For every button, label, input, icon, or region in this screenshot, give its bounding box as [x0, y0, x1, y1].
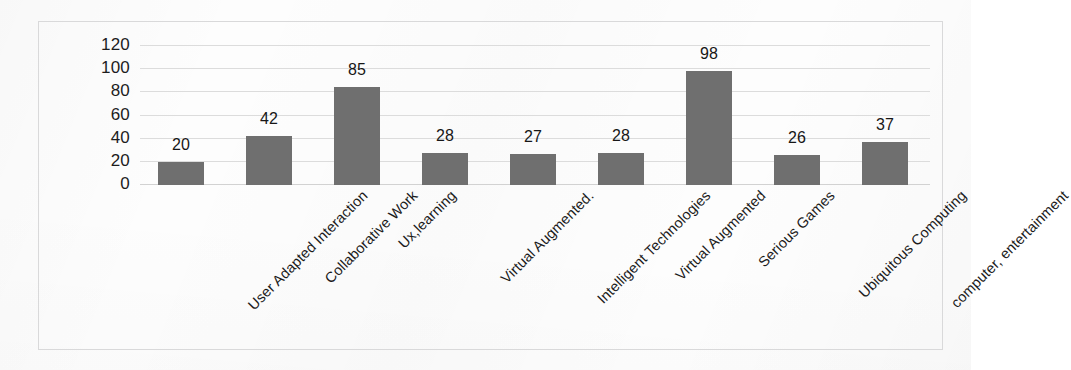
- gridline-100: [140, 68, 930, 69]
- y-axis-tick-80: 80: [111, 82, 130, 99]
- y-axis-tick-0: 0: [120, 175, 130, 192]
- bar[interactable]: [246, 136, 292, 185]
- bar[interactable]: [598, 153, 644, 185]
- y-axis-tick-40: 40: [111, 129, 130, 146]
- bar-value-label: 85: [320, 62, 394, 78]
- bar-value-label: 37: [848, 117, 922, 133]
- y-axis-tick-100: 100: [101, 59, 130, 76]
- bar-value-label: 28: [408, 128, 482, 144]
- bar-value-label: 28: [584, 128, 658, 144]
- bar-value-label: 20: [144, 137, 218, 153]
- gridline-120: [140, 45, 930, 46]
- bar-value-label: 98: [672, 46, 746, 62]
- bar-value-label: 42: [232, 111, 306, 127]
- x-axis-category-label: Virtual Augmented.: [498, 188, 596, 286]
- y-axis-tick-60: 60: [111, 106, 130, 123]
- bar[interactable]: [422, 153, 468, 185]
- bar[interactable]: [686, 71, 732, 185]
- plot-area: 204285282728982637: [140, 46, 930, 185]
- bar[interactable]: [774, 155, 820, 185]
- x-axis: User Adapted InteractionCollaborative Wo…: [140, 188, 930, 338]
- x-axis-category-label: computer, entertainment: [948, 188, 1070, 310]
- x-axis-category-label: Ubiquitous Computing: [856, 188, 969, 301]
- bar[interactable]: [862, 142, 908, 185]
- bar[interactable]: [334, 87, 380, 185]
- bar-value-label: 27: [496, 129, 570, 145]
- bar-value-label: 26: [760, 130, 834, 146]
- y-axis-tick-120: 120: [101, 36, 130, 53]
- gridline-80: [140, 91, 930, 92]
- y-axis-tick-20: 20: [111, 152, 130, 169]
- bar[interactable]: [158, 162, 204, 185]
- y-axis: 020406080100120: [60, 36, 130, 196]
- bar[interactable]: [510, 154, 556, 185]
- x-axis-category-label: Serious Games: [756, 188, 838, 270]
